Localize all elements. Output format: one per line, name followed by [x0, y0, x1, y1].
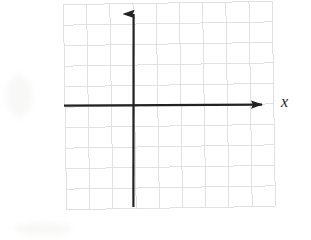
grid-line-horizontal [66, 186, 275, 189]
grid-line-horizontal [64, 22, 273, 25]
grid-line-horizontal [64, 42, 273, 45]
grid-line-horizontal [64, 63, 273, 66]
coordinate-plane [0, 0, 311, 240]
grid-line-horizontal [63, 1, 272, 4]
grid-line-horizontal [66, 145, 275, 148]
x-axis [64, 105, 262, 106]
grid-line-horizontal [66, 165, 275, 168]
grid-line-horizontal [67, 206, 276, 209]
grid-line-horizontal [65, 83, 274, 86]
grid-line-horizontal [65, 124, 274, 127]
x-axis-label: x [281, 94, 288, 110]
figure-root: x [0, 0, 311, 240]
